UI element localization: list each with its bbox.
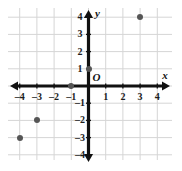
x-axis-label: x [162, 70, 168, 81]
y-tick-label: 3 [78, 29, 83, 39]
x-tick-label: 3 [138, 92, 143, 102]
y-tick-label: –4 [75, 150, 85, 160]
x-tick-label: –4 [15, 92, 25, 102]
y-tick-label: –1 [75, 98, 85, 108]
y-tick-label: –3 [75, 133, 85, 143]
coordinate-plane-figure: –4–3–2–112344321–1–2–3–4Oxy [0, 0, 182, 171]
y-tick-label: –2 [75, 115, 85, 125]
y-tick-label: 2 [78, 47, 83, 57]
x-tick-label: 2 [120, 92, 125, 102]
x-tick-label: 1 [103, 92, 108, 102]
y-tick-label: 4 [78, 12, 83, 22]
axis-labels: –4–3–2–112344321–1–2–3–4Oxy [0, 0, 182, 171]
y-axis-label: y [95, 8, 100, 19]
x-tick-label: –2 [49, 92, 59, 102]
x-tick-label: 4 [155, 92, 160, 102]
y-tick-label: 1 [78, 64, 83, 74]
origin-label: O [93, 72, 101, 83]
x-tick-label: –3 [32, 92, 42, 102]
